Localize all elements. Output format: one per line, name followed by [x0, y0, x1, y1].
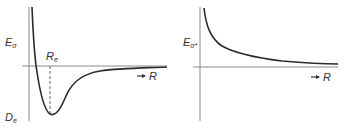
arrow-head-icon — [142, 74, 146, 78]
y-axis-label-e-sigma: Eσ — [5, 36, 17, 49]
dissociation-energy-label: De — [5, 111, 17, 124]
antibonding-curve — [204, 8, 338, 64]
x-axis-label-r: R — [323, 71, 331, 83]
potential-energy-diagrams: Eσ Re De R Eσ* R — [0, 0, 347, 129]
left-x-axis-label: R — [137, 70, 157, 82]
arrow-head-icon — [316, 75, 320, 79]
right-x-axis-label: R — [311, 71, 331, 83]
equilibrium-distance-label: Re — [46, 50, 58, 63]
x-axis-label-r: R — [149, 70, 157, 82]
left-panel-bonding: Eσ Re De R — [5, 7, 167, 124]
y-axis-label-e-sigma-star: Eσ* — [183, 36, 198, 49]
right-panel-antibonding: Eσ* R — [183, 7, 338, 121]
